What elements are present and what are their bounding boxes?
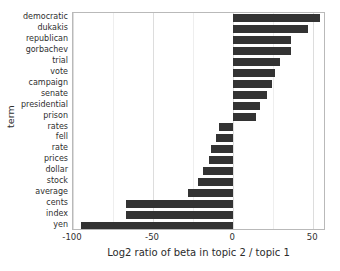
- bar-slot: [73, 57, 324, 68]
- y-axis-tick-label: rates: [16, 121, 70, 132]
- bar-slot: [73, 89, 324, 100]
- bar: [233, 14, 319, 22]
- y-axis-tick-label: senate: [16, 88, 70, 99]
- bar-slot: [73, 100, 324, 111]
- bar: [219, 123, 233, 131]
- bar-slot: [73, 187, 324, 198]
- beta-log-ratio-bar-chart: term democraticdukakisrepublicangorbache…: [0, 0, 340, 271]
- y-axis-tick-labels: democraticdukakisrepublicangorbachevtria…: [16, 12, 70, 230]
- y-axis-tick-label: prices: [16, 154, 70, 165]
- bar: [198, 178, 233, 186]
- x-axis-tick-labels: -100-50050: [72, 232, 325, 244]
- bar: [126, 211, 233, 219]
- y-axis-title-label: term: [5, 105, 16, 128]
- plot-panel: [72, 12, 325, 230]
- bar-slot: [73, 133, 324, 144]
- x-axis-tick-label: 50: [307, 232, 318, 242]
- y-axis-tick-label: dukakis: [16, 23, 70, 34]
- bar-slot: [73, 111, 324, 122]
- bar: [203, 167, 233, 175]
- bar-slot: [73, 78, 324, 89]
- x-axis-tick-label: -50: [145, 232, 159, 242]
- y-axis-tick-label: campaign: [16, 77, 70, 88]
- y-axis-tick-label: gorbachev: [16, 45, 70, 56]
- y-axis-tick-label: democratic: [16, 12, 70, 23]
- y-axis-tick-label: dollar: [16, 165, 70, 176]
- bar-slot: [73, 144, 324, 155]
- y-axis-tick-label: stock: [16, 176, 70, 187]
- x-axis-tick-label: 0: [229, 232, 234, 242]
- bar-slot: [73, 24, 324, 35]
- bar: [233, 47, 291, 55]
- y-axis-tick-label: prison: [16, 110, 70, 121]
- x-axis-tick-label: -100: [62, 232, 81, 242]
- y-axis-tick-label: presidential: [16, 99, 70, 110]
- bar-slot: [73, 198, 324, 209]
- bar: [209, 156, 233, 164]
- bar-slot: [73, 46, 324, 57]
- bar: [211, 145, 233, 153]
- x-axis-title: Log2 ratio of beta in topic 2 / topic 1: [72, 247, 325, 258]
- bar-slot: [73, 68, 324, 79]
- y-axis-tick-label: republican: [16, 34, 70, 45]
- bar: [233, 113, 255, 121]
- y-axis-tick-label: average: [16, 187, 70, 198]
- bar-slot: [73, 155, 324, 166]
- bar-slot: [73, 209, 324, 220]
- bar: [233, 25, 308, 33]
- bar-slot: [73, 220, 324, 230]
- bar: [233, 36, 291, 44]
- bar: [233, 80, 271, 88]
- bar-slot: [73, 166, 324, 177]
- bar-series: [73, 13, 324, 229]
- y-axis-tick-label: index: [16, 208, 70, 219]
- bar: [233, 69, 275, 77]
- bar-slot: [73, 122, 324, 133]
- bar: [81, 222, 233, 230]
- y-axis-tick-label: rate: [16, 143, 70, 154]
- bar-slot: [73, 35, 324, 46]
- y-axis-tick-label: yen: [16, 219, 70, 230]
- y-axis-tick-label: fell: [16, 132, 70, 143]
- bar-slot: [73, 177, 324, 188]
- y-axis-tick-label: cents: [16, 197, 70, 208]
- y-axis-tick-label: vote: [16, 67, 70, 78]
- bar-slot: [73, 13, 324, 24]
- bar: [233, 102, 260, 110]
- bar: [188, 189, 233, 197]
- bar: [126, 200, 233, 208]
- y-axis-tick-label: trial: [16, 56, 70, 67]
- bar: [233, 91, 267, 99]
- bar: [216, 134, 234, 142]
- bar: [233, 58, 279, 66]
